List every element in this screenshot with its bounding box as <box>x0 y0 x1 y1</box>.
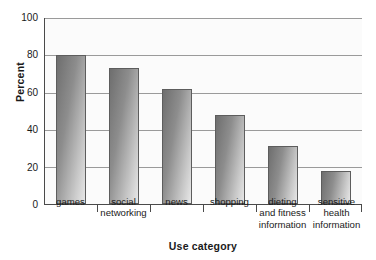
gridline-80 <box>44 55 362 56</box>
y-tick-label: 20 <box>12 163 38 173</box>
y-tick-label: 60 <box>12 88 38 98</box>
bar-games <box>56 55 86 204</box>
x-category-label-dieting-fitness-information: dietingand fitnessinformation <box>254 196 311 230</box>
bar-shopping <box>215 115 245 204</box>
x-axis-tick-labels: games socialnetworking news shopping die… <box>44 196 362 242</box>
gridline-40 <box>44 130 362 131</box>
y-tick-label: 100 <box>12 13 38 23</box>
y-tick-label: 40 <box>12 125 38 135</box>
bar-news <box>162 89 192 204</box>
gridline-20 <box>44 167 362 168</box>
gridline-100 <box>44 18 362 19</box>
x-category-label-news: news <box>150 196 203 207</box>
bar-social-networking <box>109 68 139 204</box>
x-category-label-sensitive-health-information: sensitivehealthinformation <box>308 196 365 230</box>
x-category-label-social-networking: socialnetworking <box>97 196 150 219</box>
bar-chart: Percent 100 80 60 40 20 0 games socialne… <box>0 0 376 260</box>
y-tick-label: 0 <box>12 200 38 210</box>
y-axis-line <box>44 18 45 205</box>
x-axis-title: Use category <box>44 240 362 252</box>
plot-background <box>44 18 362 205</box>
y-tick-label: 80 <box>12 50 38 60</box>
y-axis-tick-labels: 100 80 60 40 20 0 <box>12 0 38 260</box>
x-category-label-games: games <box>44 196 97 207</box>
gridline-60 <box>44 93 362 94</box>
x-category-label-shopping: shopping <box>203 196 256 207</box>
plot-area <box>44 18 362 205</box>
